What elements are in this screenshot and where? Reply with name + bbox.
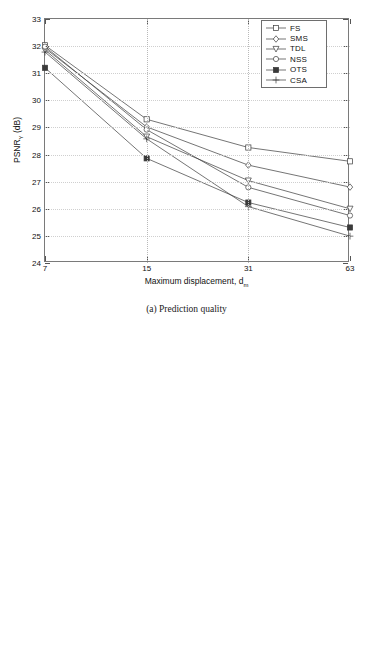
legend-a: FSSMSTDLNSSOTSCSA <box>261 20 327 88</box>
panel-a-caption: (a) Prediction quality <box>0 304 373 314</box>
legend-label: SMS <box>290 34 308 43</box>
grid-line-vertical <box>248 19 249 263</box>
series-line-ots <box>45 68 350 228</box>
grid-line-horizontal <box>45 100 350 101</box>
y-axis-title-a-tail: (dB) <box>12 117 22 135</box>
grid-line-horizontal <box>45 209 350 210</box>
y-axis-tick-label: 29 <box>32 123 41 132</box>
grid-line-horizontal <box>45 127 350 128</box>
grid-line-horizontal <box>45 182 350 183</box>
legend-symbol-fs <box>264 23 288 33</box>
figure-two-panel-comparison: 242526272829303132337153163 PSNRY (dB) M… <box>0 0 373 646</box>
y-axis-tick-label: 32 <box>32 42 41 51</box>
y-axis-tick-label: 33 <box>32 15 41 24</box>
x-axis-title-a: Maximum displacement, dm <box>145 276 249 288</box>
legend-symbol-sms <box>264 34 288 44</box>
x-axis-title-a-main: Maximum displacement, d <box>145 276 244 286</box>
page-bleed-text <box>0 632 373 646</box>
y-axis-tick-label: 24 <box>32 259 41 268</box>
legend-symbol-nss <box>264 54 288 64</box>
legend-symbol-tdl <box>264 44 288 54</box>
legend-entry-csa: CSA <box>264 75 323 85</box>
y-axis-tick-label: 31 <box>32 69 41 78</box>
legend-label: CSA <box>290 76 307 85</box>
x-tick-mark <box>350 256 351 261</box>
y-axis-title-a-sub: Y <box>18 135 24 139</box>
y-axis-tick-label: 26 <box>32 204 41 213</box>
legend-symbol-csa <box>264 75 288 85</box>
x-axis-tick-label: 31 <box>244 264 253 273</box>
legend-symbol-ots <box>264 65 288 75</box>
x-tick-mark <box>45 19 46 24</box>
x-axis-tick-label: 63 <box>346 264 355 273</box>
legend-entry-fs: FS <box>264 23 323 33</box>
y-axis-tick-label: 25 <box>32 231 41 240</box>
legend-entry-tdl: TDL <box>264 44 323 54</box>
x-tick-mark <box>45 256 46 261</box>
y-axis-tick-label: 28 <box>32 150 41 159</box>
x-axis-tick-label: 7 <box>43 264 47 273</box>
legend-label: TDL <box>290 44 306 53</box>
legend-entry-nss: NSS <box>264 54 323 64</box>
legend-label: OTS <box>290 65 307 74</box>
legend-entry-sms: SMS <box>264 33 323 43</box>
legend-label: FS <box>290 24 301 33</box>
legend-label: NSS <box>290 55 307 64</box>
x-axis-tick-label: 15 <box>142 264 151 273</box>
grid-line-horizontal <box>45 236 350 237</box>
x-tick-mark <box>350 19 351 24</box>
grid-line-horizontal <box>45 155 350 156</box>
y-axis-tick-label: 30 <box>32 96 41 105</box>
panel-prediction-quality: 242526272829303132337153163 PSNRY (dB) M… <box>0 0 373 330</box>
y-axis-title-a: PSNRY (dB) <box>12 117 24 163</box>
x-axis-title-a-sub: m <box>243 282 248 288</box>
y-tick-mark <box>343 19 348 20</box>
y-axis-title-a-main: PSNR <box>12 139 22 163</box>
y-axis-tick-label: 27 <box>32 177 41 186</box>
legend-entry-ots: OTS <box>264 65 323 75</box>
grid-line-vertical <box>147 19 148 263</box>
